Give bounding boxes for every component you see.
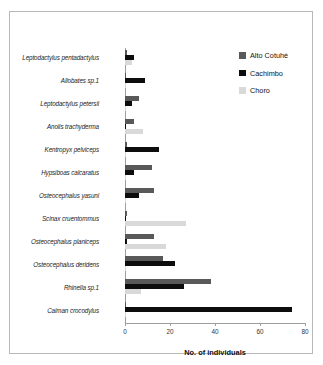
bar-cachimbo[interactable]	[125, 78, 145, 83]
bar-group	[125, 302, 305, 317]
bar-choro[interactable]	[125, 60, 132, 65]
bar-cachimbo[interactable]	[125, 101, 132, 106]
category-label: Caiman crocodylus	[47, 307, 99, 314]
bar-choro[interactable]	[125, 129, 143, 134]
bar-group	[125, 188, 305, 203]
x-axis-title: No. of individuals	[125, 348, 305, 357]
x-tick-label: 40	[211, 328, 218, 335]
x-tick	[125, 323, 126, 326]
bar-group	[125, 165, 305, 180]
bar-choro[interactable]	[125, 244, 166, 249]
x-tick	[305, 323, 306, 326]
bar-group	[125, 142, 305, 157]
category-label: Kentropyx pelviceps	[45, 146, 99, 153]
bar-choro[interactable]	[125, 83, 126, 88]
bar-cachimbo[interactable]	[125, 170, 134, 175]
bar-alto-cotuh-[interactable]	[125, 119, 134, 124]
bar-cachimbo[interactable]	[125, 193, 139, 198]
bar-choro[interactable]	[125, 198, 126, 203]
legend-item[interactable]: Choro	[239, 86, 288, 95]
category-label: Anolis trachyderma	[47, 123, 99, 130]
category-label: Osteocephalus planiceps	[31, 238, 99, 245]
x-tick-label: 80	[301, 328, 308, 335]
square-swatch-icon	[239, 70, 246, 77]
legend-item[interactable]: Alto Cotuhé	[239, 51, 288, 60]
x-tick-label: 20	[166, 328, 173, 335]
bar-alto-cotuh-[interactable]	[125, 234, 154, 239]
x-tick-label: 60	[256, 328, 263, 335]
chart-frame: Leptodactylus pentadactylus Allobates sp…	[9, 11, 313, 354]
bar-group	[125, 234, 305, 249]
legend-label: Cachimbo	[250, 69, 283, 78]
legend-label: Choro	[250, 86, 270, 95]
square-swatch-icon	[239, 52, 246, 59]
bar-choro[interactable]	[125, 312, 126, 317]
bar-choro[interactable]	[125, 266, 126, 271]
bar-choro[interactable]	[125, 221, 186, 226]
square-swatch-icon	[239, 87, 246, 94]
bar-group	[125, 211, 305, 226]
category-label: Scinax cruentommus	[42, 215, 99, 222]
category-label: Leptodactylus pentadactylus	[22, 54, 99, 61]
page-top-artifact	[12, 0, 52, 8]
bar-choro[interactable]	[125, 289, 141, 294]
bar-choro[interactable]	[125, 175, 126, 180]
category-label: Osteocephalus deridens	[33, 261, 99, 268]
bar-cachimbo[interactable]	[125, 147, 159, 152]
category-label: Leptodactylus petersii	[40, 100, 99, 107]
bar-group	[125, 279, 305, 294]
bar-choro[interactable]	[125, 152, 126, 157]
x-tick	[260, 323, 261, 326]
x-tick	[215, 323, 216, 326]
category-label: Hypsiboas calcaratus	[41, 169, 99, 176]
category-label: Rhinella sp.1	[64, 284, 99, 291]
chart-legend: Alto Cotuhé Cachimbo Choro	[239, 51, 288, 104]
bar-cachimbo[interactable]	[125, 307, 292, 312]
legend-item[interactable]: Cachimbo	[239, 69, 288, 78]
x-tick-label: 0	[123, 328, 127, 335]
bar-group	[125, 256, 305, 271]
bar-group	[125, 119, 305, 134]
x-tick	[170, 323, 171, 326]
bar-cachimbo[interactable]	[125, 261, 175, 266]
bar-choro[interactable]	[125, 106, 126, 111]
category-label: Osteocephalus yasuni	[39, 192, 99, 199]
category-label: Allobates sp.1	[61, 77, 99, 84]
chart-page: Leptodactylus pentadactylus Allobates sp…	[0, 0, 323, 365]
legend-label: Alto Cotuhé	[250, 51, 288, 60]
